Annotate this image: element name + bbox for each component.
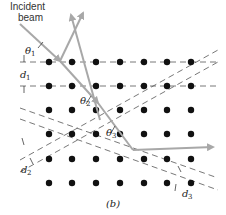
- atom: [164, 180, 170, 186]
- dimension-marks: [22, 42, 181, 191]
- atom: [188, 180, 194, 186]
- atom: [46, 107, 52, 113]
- atom: [188, 59, 194, 65]
- atom: [69, 131, 75, 137]
- atom: [69, 107, 75, 113]
- atom: [117, 59, 123, 65]
- figure-caption: (b): [106, 198, 120, 209]
- diagonal-planes-d3: [20, 108, 218, 190]
- d1-sub: 1: [26, 74, 30, 82]
- atom: [46, 131, 52, 137]
- atom: [164, 59, 170, 65]
- atom: [69, 180, 75, 186]
- atom: [93, 83, 99, 89]
- atom: [93, 59, 99, 65]
- atom: [164, 156, 170, 162]
- atom: [46, 59, 52, 65]
- atom: [141, 131, 147, 137]
- atom: [141, 59, 147, 65]
- atom: [164, 131, 170, 137]
- d2-sub: 2: [27, 169, 31, 177]
- atom: [46, 180, 52, 186]
- atom: [46, 156, 52, 162]
- theta2-sub: 2: [86, 100, 90, 108]
- atom: [141, 107, 147, 113]
- atom: [188, 131, 194, 137]
- theta3-sub: 3: [112, 132, 116, 140]
- incident-beam-label-2: beam: [18, 12, 43, 23]
- atom: [69, 83, 75, 89]
- atom: [188, 83, 194, 89]
- atom: [164, 83, 170, 89]
- atom: [117, 83, 123, 89]
- horizontal-planes: [20, 62, 218, 86]
- transmitted-beam-segment-2: [98, 103, 133, 150]
- crystal-diffraction-diagram: Incident beam θ 1 θ 2 θ 3 d 1 d 2 d 3 (b…: [0, 0, 226, 215]
- atom: [69, 59, 75, 65]
- atom: [93, 180, 99, 186]
- transmitted-beam-segment: [60, 61, 98, 103]
- theta1-sub: 1: [31, 50, 35, 58]
- atom: [117, 107, 123, 113]
- reflected-beam-3: [133, 147, 213, 150]
- atom: [141, 83, 147, 89]
- atom: [93, 131, 99, 137]
- atom: [117, 180, 123, 186]
- atom: [69, 156, 75, 162]
- atom: [93, 156, 99, 162]
- atom: [46, 83, 52, 89]
- atom: [188, 107, 194, 113]
- lattice-atoms: [46, 59, 194, 186]
- atom: [117, 156, 123, 162]
- atom: [141, 180, 147, 186]
- d3-sub: 3: [188, 193, 192, 201]
- incident-beam-label: Incident: [10, 1, 45, 12]
- atom: [164, 107, 170, 113]
- atom: [188, 156, 194, 162]
- atom: [141, 156, 147, 162]
